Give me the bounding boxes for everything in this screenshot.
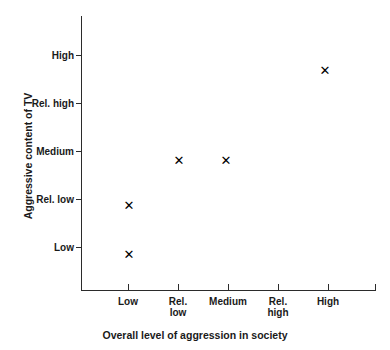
x-tick-mark-medium	[228, 284, 229, 290]
y-tick-mark-low	[76, 247, 82, 248]
data-point-high-high: ✕	[320, 64, 331, 77]
data-point-medium-medium: ✕	[221, 154, 232, 167]
y-tick-label-low: Low	[54, 242, 74, 253]
y-tick-mark-high	[76, 55, 82, 56]
x-axis-title: Overall level of aggression in society	[0, 329, 390, 341]
y-axis-title: Aggressive content of TV	[22, 66, 34, 246]
data-point-low-rel-low: ✕	[124, 199, 135, 212]
x-tick-mark-low	[128, 284, 129, 290]
x-tick-label-high: High	[293, 296, 363, 307]
data-point-rel-low-medium: ✕	[174, 154, 185, 167]
data-point-low-low: ✕	[124, 248, 135, 261]
x-axis-line	[81, 290, 376, 291]
x-tick-mark-rel-low	[178, 284, 179, 290]
y-axis-line	[81, 16, 82, 291]
y-tick-label-high: High	[52, 50, 74, 61]
x-tick-mark-high	[328, 284, 329, 290]
x-axis-end-cap	[375, 284, 376, 291]
y-tick-label-medium: Medium	[36, 146, 74, 157]
y-tick-label-rel-high: Rel. high	[32, 98, 74, 109]
x-tick-mark-rel-high	[278, 284, 279, 290]
y-tick-mark-rel-low	[76, 199, 82, 200]
y-tick-mark-medium	[76, 151, 82, 152]
y-tick-mark-rel-high	[76, 103, 82, 104]
scatter-plot-figure: High Rel. high Medium Rel. low Low Low R…	[0, 0, 390, 350]
y-tick-label-rel-low: Rel. low	[36, 194, 74, 205]
